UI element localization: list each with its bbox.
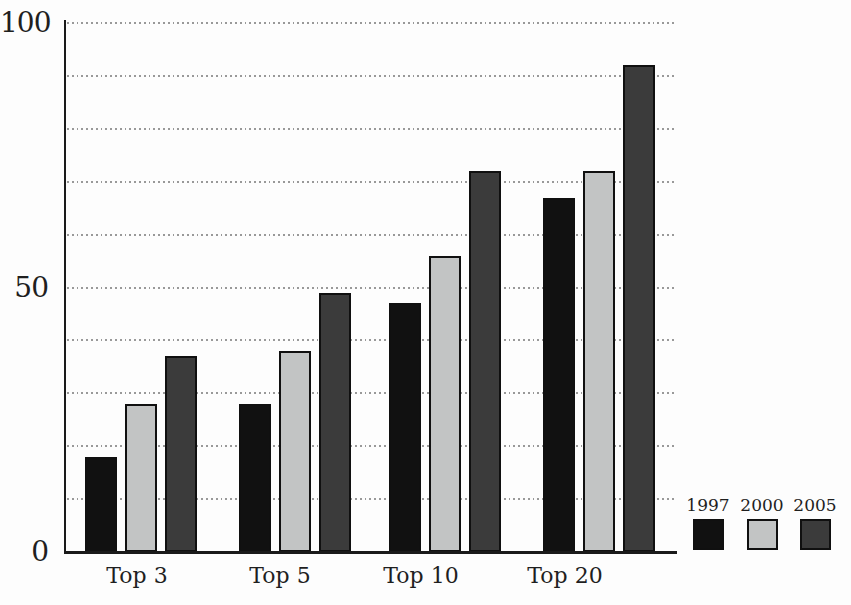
bar-top-20-2005 (623, 65, 655, 552)
legend-label-1997: 1997 (686, 495, 729, 515)
legend-item-2005: 2005 (787, 495, 843, 550)
bar-chart: 050100 Top 3Top 5Top 10Top 20 1997200020… (0, 0, 851, 605)
bar-top-10-1997 (389, 303, 421, 552)
gridline-100 (67, 22, 675, 24)
x-tick-label-top-5: Top 5 (210, 563, 350, 589)
gridline-90 (67, 75, 675, 77)
bar-top-3-1997 (85, 457, 117, 552)
x-tick-label-top-20: Top 20 (495, 563, 635, 589)
bar-top-5-2000 (279, 351, 311, 552)
bar-top-10-2000 (429, 256, 461, 552)
gridline-80 (67, 128, 675, 130)
y-tick-label-0: 0 (0, 537, 48, 567)
bar-top-5-2005 (319, 293, 351, 552)
bar-top-5-1997 (239, 404, 271, 552)
x-tick-label-top-10: Top 10 (351, 563, 491, 589)
x-tick-label-top-3: Top 3 (67, 563, 207, 589)
bar-top-10-2005 (469, 171, 501, 552)
legend-label-2005: 2005 (793, 495, 836, 515)
y-axis-line (64, 20, 66, 554)
y-tick-label-50: 50 (0, 273, 48, 303)
legend-swatch-2000 (747, 519, 778, 550)
bar-top-3-2005 (165, 356, 197, 552)
legend-swatch-1997 (693, 519, 724, 550)
legend-swatch-2005 (800, 519, 831, 550)
y-tick-label-100: 100 (0, 8, 48, 38)
bar-top-20-1997 (543, 198, 575, 552)
bar-top-20-2000 (583, 171, 615, 552)
legend-label-2000: 2000 (740, 495, 783, 515)
legend-item-1997: 1997 (680, 495, 736, 550)
x-axis-line (64, 551, 677, 554)
legend-item-2000: 2000 (734, 495, 790, 550)
bar-top-3-2000 (125, 404, 157, 552)
